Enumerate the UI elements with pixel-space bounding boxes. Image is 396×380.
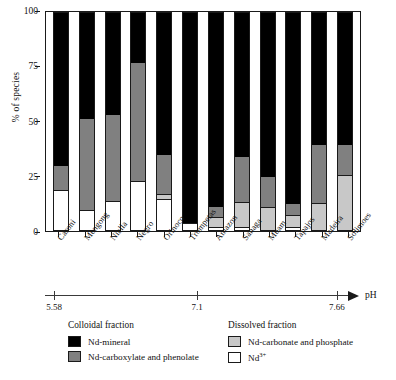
bar-segment-mineral (131, 13, 145, 63)
bar-segment-carbox (235, 157, 249, 202)
bar-segment-mineral (261, 13, 275, 177)
bar-segment-carbox (80, 119, 94, 210)
bar-segment-mineral (312, 13, 326, 145)
ph-axis-label: pH (365, 290, 377, 300)
bar-slot (306, 12, 332, 231)
ph-axis-arrow-icon (348, 291, 359, 301)
bar-segment-carb (235, 202, 249, 227)
stacked-bar-chart-figure: % of species 1007550250 CaroniMengongNia… (0, 0, 396, 380)
ph-tick-label: 5.58 (46, 302, 62, 312)
legend-group-title: Dissolved fraction (228, 320, 353, 330)
legend-group-dissolved: Dissolved fraction Nd-carbonate and phos… (228, 320, 353, 367)
legend-item-nd-mineral: Nd-mineral (68, 336, 199, 347)
stacked-bar[interactable] (311, 12, 327, 231)
legend-label-nd-carboxylate: Nd-carboxylate and phenolate (88, 352, 199, 362)
y-axis-tick-mark (35, 121, 40, 122)
legend-swatch-nd-carboxylate (68, 351, 81, 362)
bar-segment-mineral (183, 13, 197, 223)
legend-swatch-nd-free-ion (228, 352, 241, 363)
stacked-bar[interactable] (105, 12, 121, 231)
ph-axis: pH 5.587.17.66 (45, 291, 390, 317)
legend-group-title: Colloidal fraction (68, 320, 199, 330)
legend-item-nd-free-ion: Nd3+ (228, 351, 353, 363)
stacked-bar[interactable] (182, 12, 198, 231)
bar-segment-mineral (106, 13, 120, 115)
ph-tick-mark (197, 291, 198, 300)
bar-segment-mineral (209, 13, 223, 207)
ph-tick-label: 7.1 (191, 302, 202, 312)
bar-slot (74, 12, 100, 231)
bar-slot (125, 12, 151, 231)
stacked-bar[interactable] (53, 12, 69, 231)
bar-segment-carbox (157, 155, 171, 194)
bar-segment-carbox (312, 145, 326, 203)
bar-slot (280, 12, 306, 231)
stacked-bar[interactable] (130, 12, 146, 231)
bars-container (46, 12, 360, 231)
bar-slot (229, 12, 255, 231)
stacked-bar[interactable] (337, 12, 353, 231)
y-axis-tick-mark (35, 232, 40, 233)
stacked-bar[interactable] (156, 12, 172, 231)
bar-slot (100, 12, 126, 231)
bar-segment-mineral (286, 13, 300, 204)
legend-group-colloidal: Colloidal fraction Nd-mineral Nd-carboxy… (68, 320, 199, 366)
bar-segment-carbox (131, 63, 145, 182)
bar-segment-carb (286, 215, 300, 227)
legend-label-nd-mineral: Nd-mineral (88, 337, 130, 347)
ph-tick-mark (54, 291, 55, 300)
legend-item-nd-carbonate: Nd-carbonate and phosphate (228, 336, 353, 347)
y-axis-tick-mark (35, 176, 40, 177)
ph-tick-label: 7.66 (329, 302, 345, 312)
bar-segment-carbox (261, 177, 275, 207)
bar-slot (255, 12, 281, 231)
stacked-bar[interactable] (285, 12, 301, 231)
bar-slot (48, 12, 74, 231)
bar-slot (177, 12, 203, 231)
stacked-bar[interactable] (79, 12, 95, 231)
bar-slot (332, 12, 358, 231)
bar-segment-mineral (235, 13, 249, 157)
bar-segment-mineral (157, 13, 171, 155)
stacked-bar[interactable] (260, 12, 276, 231)
bar-slot (203, 12, 229, 231)
y-axis-tick-mark (35, 11, 40, 12)
stacked-bar[interactable] (234, 12, 250, 231)
bar-segment-carbox (54, 166, 68, 190)
legend-swatch-nd-carbonate (228, 336, 241, 347)
y-axis-tick-mark (35, 66, 40, 67)
legend-item-nd-carboxylate: Nd-carboxylate and phenolate (68, 351, 199, 362)
x-axis-category-labels: CaroniMengongNiallaNegroOrinocoTrompetas… (45, 236, 361, 288)
legend-label-nd-free-ion-superscript: 3+ (259, 351, 266, 358)
stacked-bar[interactable] (208, 12, 224, 231)
bar-segment-carbox (286, 204, 300, 215)
ph-tick-mark (337, 291, 338, 300)
legend: Colloidal fraction Nd-mineral Nd-carboxy… (0, 320, 396, 378)
legend-label-nd-carbonate: Nd-carbonate and phosphate (248, 337, 353, 347)
bar-segment-mineral (54, 13, 68, 166)
bar-segment-carb (312, 203, 326, 230)
bar-segment-carbox (338, 145, 352, 175)
legend-label-nd-free-ion: Nd3+ (248, 351, 266, 363)
bar-segment-mineral (338, 13, 352, 145)
bar-segment-carbox (106, 115, 120, 201)
legend-swatch-nd-mineral (68, 336, 81, 347)
bar-slot (151, 12, 177, 231)
bar-segment-mineral (80, 13, 94, 119)
plot-area (45, 11, 361, 232)
